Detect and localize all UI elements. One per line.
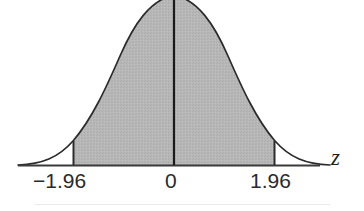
bottom-divider — [35, 204, 330, 205]
x-axis-label-z: z — [331, 146, 340, 169]
tick-label-zero: 0 — [165, 170, 177, 191]
tick-label-positive-196: 1.96 — [250, 170, 291, 191]
tick-label-negative-196: −1.96 — [33, 170, 86, 191]
